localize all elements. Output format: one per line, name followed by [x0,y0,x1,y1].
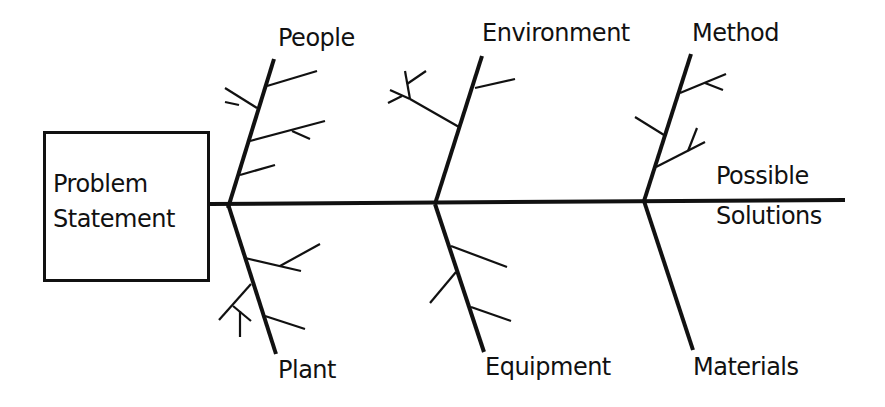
category-method-label: Method [692,19,779,47]
category-environment-label: Environment [482,19,630,47]
category-materials-label: Materials [693,353,799,381]
category-plant-label: Plant [278,356,336,384]
problem-label-line2: Statement [53,205,175,233]
environment-bone [388,56,515,204]
category-equipment-label: Equipment [485,353,611,381]
method-bone [635,54,726,201]
people-bone [225,59,325,208]
problem-label-line1: Problem [53,170,148,198]
equipment-bone [430,204,511,352]
fishbone-diagram: Problem Statement People Environment Met… [0,0,885,407]
plant-bone [219,204,320,354]
possible-solutions-label-line2: Solutions [716,202,822,230]
category-people-label: People [278,24,355,52]
materials-bone [644,201,693,350]
possible-solutions-label-line1: Possible [716,162,809,190]
